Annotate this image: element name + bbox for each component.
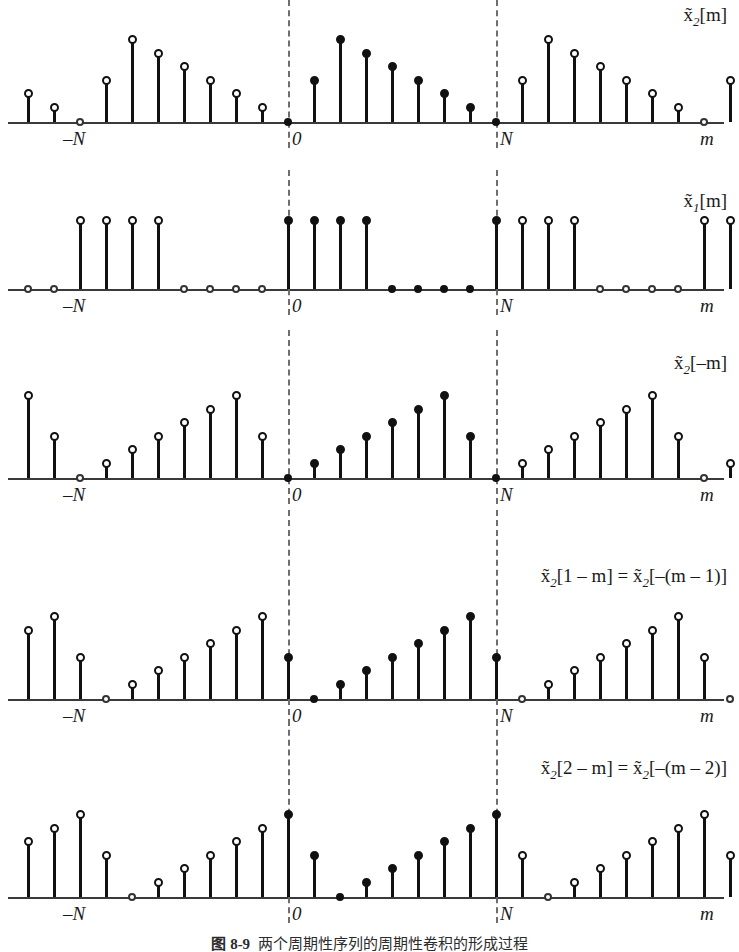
stem-plot-x2-minus-m: –N0Nmx̃2[–m]: [0, 330, 739, 510]
stem: [235, 95, 238, 122]
stem: [547, 222, 550, 290]
stem: [625, 645, 628, 699]
stem: [573, 438, 576, 479]
stem: [313, 82, 316, 123]
stem-head-zero: [232, 285, 240, 293]
stem-head: [570, 216, 579, 225]
axis-line: [8, 289, 724, 291]
stem: [183, 424, 186, 478]
stem-head: [336, 680, 345, 689]
tick-label-neg-n: –N: [63, 903, 85, 925]
stem-head: [50, 612, 59, 621]
stem: [391, 68, 394, 122]
stem: [209, 411, 212, 479]
stem: [443, 95, 446, 122]
stem: [677, 438, 680, 479]
stem-head: [362, 49, 371, 58]
stem-head: [206, 405, 215, 414]
panel-label-x1-m: x̃1[m]: [684, 190, 727, 216]
stem-head-zero: [310, 695, 318, 703]
stem: [287, 659, 290, 700]
stem: [27, 397, 30, 478]
stem: [261, 438, 264, 479]
stem: [157, 55, 160, 123]
stem: [729, 222, 732, 290]
stem-head: [76, 810, 85, 819]
tick-label-n: N: [500, 903, 513, 925]
stem: [625, 857, 628, 898]
stem: [365, 672, 368, 699]
stem: [521, 857, 524, 898]
stem: [495, 222, 498, 290]
stem: [417, 411, 420, 479]
stem-head: [570, 49, 579, 58]
stem: [131, 41, 134, 122]
stem: [729, 82, 732, 123]
stem-head: [544, 35, 553, 44]
stem: [235, 843, 238, 897]
stem-head-zero: [466, 285, 474, 293]
stem: [287, 816, 290, 897]
stem: [209, 857, 212, 898]
stem: [183, 68, 186, 122]
stem-head: [154, 49, 163, 58]
stem-head: [258, 612, 267, 621]
stem-head: [388, 864, 397, 873]
stem-head: [76, 216, 85, 225]
stem-head: [622, 639, 631, 648]
stem: [547, 451, 550, 478]
stem: [417, 857, 420, 898]
stem: [261, 830, 264, 898]
stem: [53, 618, 56, 699]
stem-head: [622, 405, 631, 414]
stem-head: [50, 824, 59, 833]
stem-head: [206, 851, 215, 860]
stem: [53, 830, 56, 898]
stem: [521, 82, 524, 123]
stem: [391, 424, 394, 478]
stem-head: [414, 639, 423, 648]
stem: [391, 659, 394, 700]
stem-head: [518, 76, 527, 85]
stem: [79, 659, 82, 700]
stem: [339, 41, 342, 122]
stem-head: [518, 459, 527, 468]
stem: [183, 659, 186, 700]
stem-head: [128, 35, 137, 44]
stem-head-zero: [284, 118, 292, 126]
stem-head: [622, 851, 631, 860]
stem-head: [232, 89, 241, 98]
stem: [157, 672, 160, 699]
stem-head-zero: [388, 285, 396, 293]
axis-line: [8, 122, 724, 124]
panel-label-x2-m: x̃2[m]: [684, 4, 727, 30]
stem: [729, 857, 732, 898]
stem: [339, 451, 342, 478]
stem-head: [128, 680, 137, 689]
stem-head: [466, 612, 475, 621]
stem-head-zero: [700, 118, 708, 126]
tick-label-neg-n: –N: [63, 128, 85, 150]
stem: [27, 843, 30, 897]
stem-head: [336, 216, 345, 225]
stem-head: [414, 851, 423, 860]
stem: [313, 222, 316, 290]
stem: [417, 82, 420, 123]
stem-head-zero: [76, 474, 84, 482]
tick-label-n: N: [500, 128, 513, 150]
stem-head: [206, 76, 215, 85]
stem-head: [440, 837, 449, 846]
stem: [677, 830, 680, 898]
axis-variable-label: m: [700, 295, 714, 317]
stem: [651, 843, 654, 897]
stem-head: [50, 432, 59, 441]
stem-head-zero: [258, 285, 266, 293]
stem-head-zero: [492, 474, 500, 482]
stem: [287, 222, 290, 290]
stem-head: [180, 864, 189, 873]
stem-head: [544, 216, 553, 225]
stem-head: [284, 653, 293, 662]
stem-head: [336, 35, 345, 44]
stem-head: [674, 612, 683, 621]
stem-head: [440, 391, 449, 400]
